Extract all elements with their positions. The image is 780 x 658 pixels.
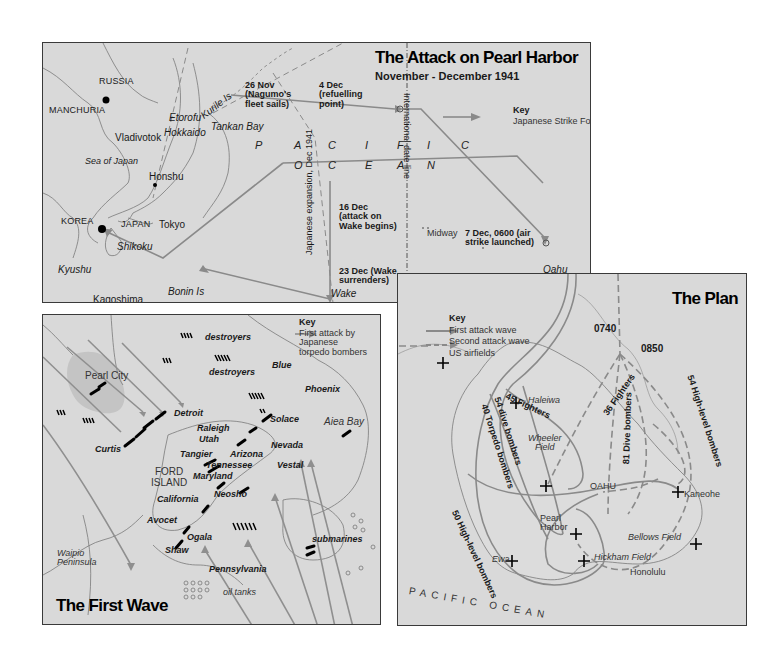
label-vladivostok: Vladivotok (115, 133, 161, 144)
ship-vestal: Vestal (277, 461, 303, 470)
first-wave-title: The First Wave (56, 597, 168, 615)
ocean-letter: O (294, 160, 304, 172)
plan-key-first-wave: First attack wave (449, 326, 517, 335)
label-tankan-bay: Tankan Bay (211, 122, 263, 133)
label-japanese-expansion-line: Japanese expansion, Dec 1941 (305, 129, 314, 255)
label-manchuria: MANCHURIA (49, 106, 105, 115)
label-wake: Wake (331, 289, 356, 300)
ship-ogala: Ogala (187, 533, 212, 542)
ship-pennsylvania: Pennsylvania (209, 565, 267, 574)
label-wheeler-field: Wheeler Field (528, 434, 562, 453)
overview-title: The Attack on Pearl Harbor (375, 49, 578, 67)
ocean-letter: C (328, 160, 337, 172)
label-oahu: OAHU (590, 482, 616, 491)
label-ewa: Ewa (492, 555, 510, 564)
label-etorofu: Etorofu (169, 113, 201, 124)
ship-nevada: Nevada (271, 441, 303, 450)
label-honshu: Honshu (149, 172, 183, 183)
ship-tangier: Tangier (180, 450, 212, 459)
ship-curtis: Curtis (95, 445, 121, 454)
plan-key-second-wave: Second attack wave (449, 337, 530, 346)
ship-arizona: Arizona (230, 450, 263, 459)
ocean-letter: C (461, 140, 470, 152)
ship-solace: Solace (270, 415, 299, 424)
ship-neosho: Neosho (214, 490, 247, 499)
label-tokyo: Tokyo (159, 220, 185, 231)
label-waipio-peninsula: Waipio Peninsula (57, 549, 97, 568)
ocean-letter: A (294, 140, 302, 152)
label-bonin-islands: Bonin Is (168, 287, 204, 298)
ship-destroyers-2: destroyers (209, 368, 255, 377)
panel-attack-overview: The Attack on Pearl Harbor November - De… (42, 42, 591, 303)
label-hokkaido: Hokkaido (164, 128, 206, 139)
ocean-letter: E (365, 160, 373, 172)
event-4-dec: 4 Dec (refuelling point) (319, 81, 363, 109)
ship-maryland: Maryland (193, 472, 233, 481)
ocean-letter: N (427, 160, 436, 172)
label-sea-of-japan: Sea of Japan (85, 157, 138, 166)
plan-title: The Plan (672, 290, 738, 308)
ship-california: California (157, 495, 199, 504)
label-hickham-field: Hickham Field (594, 553, 651, 562)
ocean-letter: P (255, 140, 263, 152)
panel-first-wave: The First Wave Key First attack by Japan… (42, 314, 381, 625)
ocean-letter: I (427, 140, 431, 152)
label-bellows-field: Bellows Field (628, 533, 681, 542)
ocean-letter: I (365, 140, 369, 152)
label-pearl-city: Pearl City (85, 371, 128, 382)
label-aiea-bay: Aiea Bay (324, 417, 364, 428)
ship-shaw: Shaw (165, 546, 189, 555)
time-0740: 0740 (594, 324, 616, 335)
ship-raleigh: Raleigh (197, 424, 230, 433)
label-shikoku: Shikoku (117, 242, 153, 253)
first-wave-key-heading: Key (299, 318, 316, 327)
event-26-nov: 26 Nov (Nagumo's fleet sails) (245, 81, 291, 109)
label-midway: Midway (427, 229, 458, 238)
plan-key-heading: Key (449, 314, 466, 323)
label-kyushu: Kyushu (58, 265, 91, 276)
time-0850: 0850 (641, 344, 663, 355)
label-haleiwa: Haleiwa (528, 396, 560, 405)
label-korea: KOREA (61, 217, 94, 226)
overview-subtitle: November - December 1941 (375, 71, 519, 83)
first-wave-key-text: First attack by Japanese torpedo bombers (299, 329, 367, 357)
ship-utah: Utah (199, 435, 219, 444)
event-23-dec: 23 Dec (Wake surrenders) (339, 267, 397, 286)
ocean-letter: C (328, 140, 337, 152)
ship-destroyers-1: destroyers (205, 333, 251, 342)
overview-key-strike-force: Japanese Strike Force (513, 117, 591, 126)
panel-the-plan: The Plan Key First attack wave Second at… (397, 273, 747, 626)
ship-phoenix: Phoenix (305, 385, 340, 394)
ship-tennessee: Tennessee (206, 461, 252, 470)
ship-submarines: submarines (312, 535, 363, 544)
label-oil-tanks: oil tanks (223, 588, 256, 597)
label-pearl-harbor: Pearl Harbor (540, 514, 568, 533)
ship-avocet: Avocet (147, 516, 177, 525)
label-japan: JAPAN (121, 220, 150, 229)
overview-key-heading: Key (513, 106, 530, 115)
label-kagoshima: Kagoshima (93, 295, 143, 303)
label-kaneohe: Kaneohe (684, 490, 720, 499)
label-russia: RUSSIA (99, 77, 134, 86)
label-ford-island: FORD ISLAND (151, 467, 187, 488)
event-7-dec: 7 Dec, 0600 (air strike launched) (465, 229, 534, 248)
ship-blue: Blue (272, 361, 292, 370)
event-16-dec: 16 Dec (attack on Wake begins) (339, 203, 397, 231)
ship-detroit: Detroit (174, 409, 203, 418)
label-honolulu: Honolulu (630, 568, 666, 577)
plan-key-airfields: US airfields (449, 349, 495, 358)
label-international-date-line: International date line (402, 93, 411, 179)
